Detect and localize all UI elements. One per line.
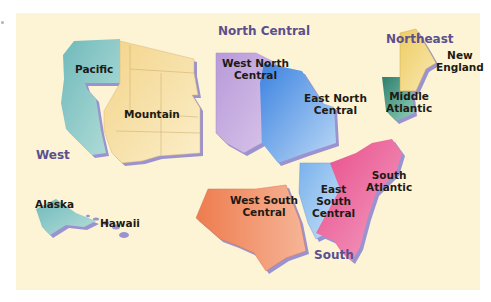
division-label-alaska: Alaska — [35, 198, 74, 210]
region-label-south: South — [314, 248, 354, 262]
division-label-mountain: Mountain — [124, 108, 180, 120]
label-line: Central — [304, 104, 367, 116]
division-label-new-england: New England — [436, 49, 484, 73]
division-label-east-north-central: East North Central — [304, 92, 367, 116]
edge-mark — [1, 21, 4, 24]
region-label-northeast: Northeast — [386, 32, 454, 46]
label-line: Atlantic — [386, 102, 432, 114]
label-line: Central — [230, 206, 298, 218]
region-label-north-central: North Central — [218, 24, 310, 38]
division-label-west-south-central: West South Central — [230, 194, 298, 218]
division-label-south-atlantic: South Atlantic — [366, 169, 412, 193]
division-label-pacific: Pacific — [75, 63, 113, 75]
division-label-hawaii: Hawaii — [100, 217, 140, 229]
region-label-west: West — [36, 148, 70, 162]
label-line: East — [312, 183, 355, 195]
label-line: South — [366, 169, 412, 181]
division-label-east-south-central: East South Central — [312, 183, 355, 219]
label-line: West North — [222, 57, 289, 69]
us-regions-map — [16, 13, 480, 290]
label-line: East North — [304, 92, 367, 104]
label-line: New — [436, 49, 484, 61]
label-line: Central — [222, 69, 289, 81]
label-line: West South — [230, 194, 298, 206]
label-line: Central — [312, 207, 355, 219]
map-panel: North Central Northeast West South Pacif… — [16, 13, 480, 290]
label-line: South — [312, 195, 355, 207]
label-line: Atlantic — [366, 181, 412, 193]
division-label-west-north-central: West North Central — [222, 57, 289, 81]
label-line: England — [436, 61, 484, 73]
division-label-middle-atlantic: Middle Atlantic — [386, 90, 432, 114]
label-line: Middle — [386, 90, 432, 102]
